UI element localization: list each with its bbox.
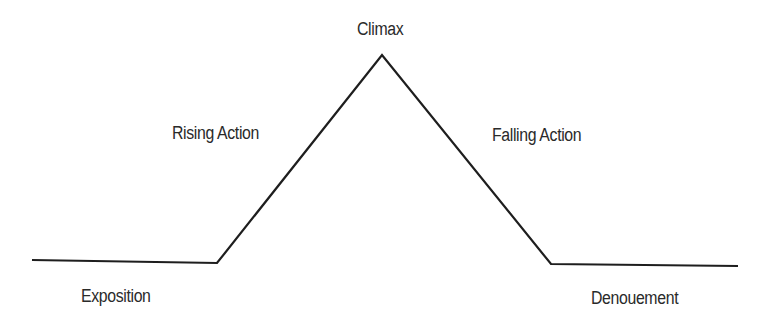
label-exposition: Exposition (81, 286, 151, 307)
label-denouement: Denouement (591, 288, 678, 309)
label-climax: Climax (357, 19, 403, 40)
label-falling-action: Falling Action (492, 125, 581, 146)
label-rising-action: Rising Action (172, 123, 259, 144)
plot-structure-diagram (0, 0, 763, 320)
plot-line (32, 55, 738, 266)
